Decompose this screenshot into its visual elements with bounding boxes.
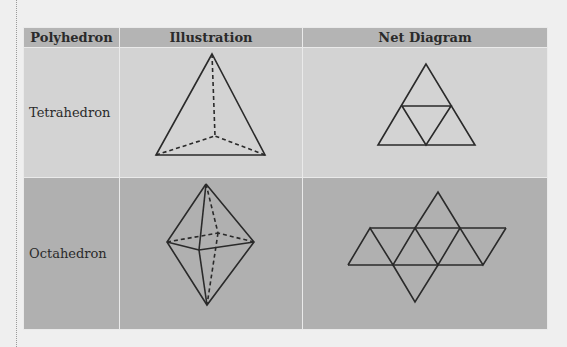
header-illustration: Illustration: [120, 28, 303, 48]
margin-dotted-line: [16, 0, 17, 347]
tetrahedron-net-diagram: [303, 48, 549, 177]
header-row: Polyhedron Illustration Net Diagram: [24, 28, 548, 48]
octahedron-illustration: [120, 178, 302, 329]
table-row: Octahedron: [24, 178, 548, 330]
polyhedron-name: Tetrahedron: [24, 48, 120, 178]
tetrahedron-illustration: [120, 48, 302, 177]
illustration-cell: [120, 48, 303, 178]
polyhedron-table: Polyhedron Illustration Net Diagram Tetr…: [23, 27, 548, 330]
octahedron-net-diagram: [303, 178, 549, 329]
illustration-cell: [120, 178, 303, 330]
net-cell: [303, 178, 548, 330]
table-row: Tetrahedron: [24, 48, 548, 178]
header-net-diagram: Net Diagram: [303, 28, 548, 48]
polyhedron-name: Octahedron: [24, 178, 120, 330]
header-polyhedron: Polyhedron: [24, 28, 120, 48]
net-cell: [303, 48, 548, 178]
